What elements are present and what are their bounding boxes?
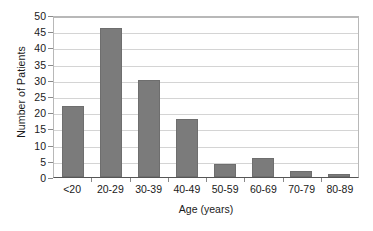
bar-slot <box>54 17 92 177</box>
x-axis-tick-label: 20-29 <box>91 182 129 196</box>
x-axis-tick-label: 60-69 <box>244 182 282 196</box>
x-axis-title: Age (years) <box>53 203 359 216</box>
bar <box>138 80 159 177</box>
y-axis-tick-label: 0 <box>22 173 46 184</box>
bar-slot <box>92 17 130 177</box>
x-axis-tick-label: 40-49 <box>168 182 206 196</box>
x-axis-tick-label: 80-89 <box>321 182 359 196</box>
bar <box>62 106 83 177</box>
x-axis-tick-label: 50-59 <box>206 182 244 196</box>
y-axis-tick-label: 50 <box>22 11 46 22</box>
x-axis-tick-labels: <2020-2930-3940-4950-5960-6970-7980-89 <box>53 182 359 196</box>
y-axis-tick-label: 45 <box>22 27 46 38</box>
bar <box>176 119 197 177</box>
bar-chart: Number of Patients 05101520253035404550 … <box>0 0 373 231</box>
y-axis-tick-label: 25 <box>22 92 46 103</box>
bar-slot <box>320 17 358 177</box>
x-axis-tick-label: <20 <box>53 182 91 196</box>
y-axis-tick-label: 5 <box>22 156 46 167</box>
y-axis-tick-label: 30 <box>22 75 46 86</box>
y-axis-tick-label: 15 <box>22 124 46 135</box>
bar-slot <box>130 17 168 177</box>
bar-slot <box>168 17 206 177</box>
y-axis-tick-labels: 05101520253035404550 <box>22 16 46 178</box>
bar-series <box>54 17 358 177</box>
x-axis-tick-label: 70-79 <box>283 182 321 196</box>
y-axis-tick-label: 10 <box>22 140 46 151</box>
y-axis-tick-label: 20 <box>22 108 46 119</box>
bar-slot <box>244 17 282 177</box>
y-axis-tick-label: 35 <box>22 59 46 70</box>
bar <box>214 164 235 177</box>
bar <box>252 158 273 177</box>
x-axis-tick-label: 30-39 <box>130 182 168 196</box>
bar <box>290 171 311 177</box>
bar-slot <box>206 17 244 177</box>
y-axis-tick-label: 40 <box>22 43 46 54</box>
bar <box>100 28 121 177</box>
bar-slot <box>282 17 320 177</box>
plot-area <box>53 16 359 178</box>
bar <box>328 174 349 177</box>
